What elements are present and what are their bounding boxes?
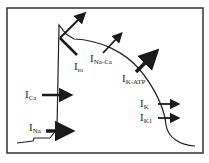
label-ina: INa (29, 121, 42, 135)
label-ito: Ito (74, 60, 84, 74)
action-potential-curve (17, 25, 195, 146)
label-ica: ICa (25, 88, 37, 102)
label-ik1: IK1 (140, 111, 153, 125)
label-inaca: INa-Ca (90, 52, 113, 66)
action-potential-diagram: Ito INa-Ca IK-ATP ICa IK IK1 INa (0, 0, 209, 163)
ito-arrow (60, 16, 82, 55)
label-ik: IK (140, 97, 149, 111)
label-ikatp: IK-ATP (122, 72, 146, 86)
ikatp-arrow (136, 56, 152, 72)
